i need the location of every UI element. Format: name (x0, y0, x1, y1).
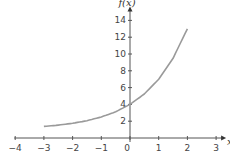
x-tick-label: −4 (9, 143, 23, 153)
x-axis-arrow-icon (221, 136, 226, 141)
axis-labels: −4−3−2−101232468101214xf(x) (9, 0, 230, 153)
y-tick-label: 6 (120, 83, 126, 93)
y-tick-label: 2 (120, 116, 126, 126)
y-tick-label: 14 (115, 15, 127, 25)
function-curve (44, 29, 188, 127)
x-tick-label: −3 (37, 143, 50, 153)
x-tick-label: −2 (66, 143, 79, 153)
x-tick-label: 2 (185, 143, 191, 153)
y-tick-label: 10 (115, 49, 127, 59)
x-axis-label: x (227, 136, 230, 147)
data-series (44, 29, 188, 127)
x-tick-label: 3 (213, 143, 219, 153)
line-chart: −4−3−2−101232468101214xf(x) (0, 0, 230, 155)
y-tick-label: 8 (120, 66, 126, 76)
x-tick-label: 0 (124, 143, 130, 153)
y-tick-label: 4 (120, 99, 126, 109)
x-tick-label: −1 (95, 143, 108, 153)
x-tick-label: 1 (156, 143, 162, 153)
y-tick-label: 12 (115, 32, 126, 42)
y-axis-label: f(x) (117, 0, 135, 8)
